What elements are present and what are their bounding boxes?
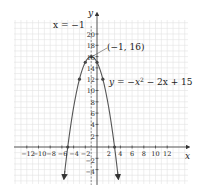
curve-arrow-right <box>117 171 118 177</box>
x-tick-label: 4 <box>118 150 122 158</box>
y-tick-label: −2 <box>85 157 95 165</box>
curve-arrow-left <box>64 171 65 177</box>
y-tick-label: 2 <box>91 133 95 141</box>
x-tick-label: 8 <box>142 150 146 158</box>
vertex-label: (−1, 16) <box>107 42 144 52</box>
x-tick-label: 6 <box>130 150 134 158</box>
x-tick-label: −8 <box>46 150 56 158</box>
x-axis-label: x <box>185 151 190 161</box>
vertex-leader-line <box>93 48 107 56</box>
x-tick-label: −4 <box>69 150 79 158</box>
data-point <box>78 78 81 81</box>
y-tick-label: 20 <box>87 31 95 39</box>
parabola-graph: −12 −10 −8 −6 −4 −2 2 4 6 8 10 12 −4 −2 … <box>0 0 203 193</box>
y-axis-label: y <box>87 8 94 18</box>
y-tick-label: 16 <box>87 54 95 62</box>
y-tick-label: 14 <box>87 65 95 73</box>
y-tick-label: 18 <box>87 42 95 50</box>
data-point <box>101 78 104 81</box>
data-point <box>95 61 98 64</box>
y-tick-label: 4 <box>91 121 95 129</box>
y-tick-label: −4 <box>85 168 95 176</box>
x-tick-label: −6 <box>58 150 68 158</box>
y-tick-label: 12 <box>87 76 95 84</box>
x-tick-label: 10 <box>151 150 159 158</box>
y-tick-label: 8 <box>91 99 95 107</box>
y-tick-label: 6 <box>91 110 95 118</box>
x-tick-labels: −12 −10 −8 −6 −4 −2 2 4 6 8 10 12 <box>21 150 171 158</box>
x-tick-label: 12 <box>163 150 171 158</box>
y-tick-label: 10 <box>87 87 95 95</box>
x-tick-label: 2 <box>107 150 111 158</box>
equation-label: y = −x2 − 2x + 15 <box>108 76 193 88</box>
data-point <box>113 145 116 148</box>
data-point <box>66 145 69 148</box>
grid <box>14 20 188 184</box>
x-tick-label: −10 <box>33 150 47 158</box>
axis-of-symmetry-label: x = −1 <box>53 20 85 30</box>
